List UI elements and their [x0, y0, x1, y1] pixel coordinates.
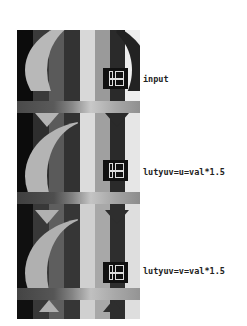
digit-counter-box: [103, 262, 128, 283]
triangle-marker-left: [35, 210, 59, 224]
triangle-marker-bottom-right: [103, 300, 123, 312]
gradient-bar: [17, 288, 140, 300]
triangle-marker-right: [105, 113, 129, 127]
gradient-bar: [17, 101, 140, 113]
panel-lutyuv-v-image: [17, 204, 140, 319]
gradient-bar: [17, 192, 140, 204]
triangle-marker-left: [35, 113, 59, 127]
panel-input-image: [17, 30, 140, 113]
digit-counter-box: [103, 160, 128, 181]
triangle-marker-bottom-left: [39, 300, 59, 312]
digit-counter-box: [103, 68, 128, 89]
panel-label-lutyuv-v: lutyuv=v=val*1.5: [143, 266, 225, 276]
triangle-marker-right: [105, 210, 129, 224]
panel-label-input: input: [143, 74, 169, 84]
panel-lutyuv-u-image: [17, 113, 140, 204]
panel-label-lutyuv-u: lutyuv=u=val*1.5: [143, 167, 225, 177]
